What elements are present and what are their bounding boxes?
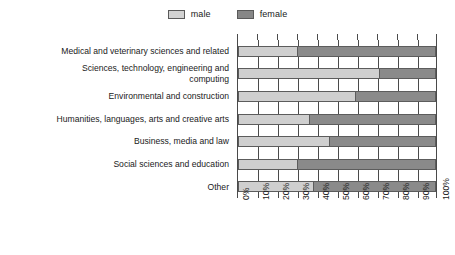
bar-segment-female[interactable] xyxy=(309,114,436,125)
x-axis-tick-labels: 0%10%20%30%40%50%60%70%80%90%100% xyxy=(237,200,437,250)
plot-area xyxy=(237,40,437,198)
x-tick-label: 30% xyxy=(301,183,311,200)
male-swatch-icon xyxy=(168,10,185,19)
x-tick-label: 60% xyxy=(361,183,371,200)
bar-row[interactable] xyxy=(238,136,436,147)
category-label: Humanities, languages, arts and creative… xyxy=(0,114,229,125)
stacked-bar-chart: male female Medical and veterinary scien… xyxy=(0,0,455,255)
x-tick-label: 70% xyxy=(381,183,391,200)
x-tick-label: 80% xyxy=(401,183,411,200)
bar-segment-male[interactable] xyxy=(238,136,329,147)
bar-segment-male[interactable] xyxy=(238,68,379,79)
category-label: Business, media and law xyxy=(0,136,229,147)
bar-row[interactable] xyxy=(238,46,436,57)
x-tick-label: 100% xyxy=(441,178,451,200)
bar-row[interactable] xyxy=(238,91,436,102)
bar-segment-female[interactable] xyxy=(379,68,436,79)
legend-label-female: female xyxy=(260,9,288,19)
bar-rows xyxy=(238,40,436,198)
bar-segment-male[interactable] xyxy=(238,159,297,170)
bar-row[interactable] xyxy=(238,159,436,170)
x-tick-label: 50% xyxy=(341,183,351,200)
category-axis-labels: Medical and veterinary sciences and rela… xyxy=(0,40,233,198)
chart-legend: male female xyxy=(0,9,455,19)
legend-item-male[interactable]: male xyxy=(168,9,211,19)
x-tick-label: 90% xyxy=(421,183,431,200)
x-tick-label: 20% xyxy=(281,183,291,200)
x-tick-label: 0% xyxy=(241,188,251,200)
bar-segment-female[interactable] xyxy=(297,159,436,170)
bar-segment-female[interactable] xyxy=(313,181,436,192)
x-tick-label: 40% xyxy=(321,183,331,200)
female-swatch-icon xyxy=(237,10,254,19)
legend-label-male: male xyxy=(191,9,211,19)
legend-item-female[interactable]: female xyxy=(237,9,288,19)
category-label: Medical and veterinary sciences and rela… xyxy=(0,46,229,57)
bar-segment-male[interactable] xyxy=(238,91,355,102)
bar-segment-female[interactable] xyxy=(355,91,436,102)
category-label: Sciences, technology, engineering and co… xyxy=(44,63,229,84)
x-tick-label: 10% xyxy=(261,183,271,200)
bar-segment-female[interactable] xyxy=(329,136,436,147)
category-label: Environmental and construction xyxy=(0,91,229,102)
category-label: Social sciences and education xyxy=(0,159,229,170)
bar-row[interactable] xyxy=(238,114,436,125)
bar-segment-female[interactable] xyxy=(297,46,436,57)
bar-row[interactable] xyxy=(238,68,436,79)
category-label: Other xyxy=(0,182,229,193)
bar-segment-male[interactable] xyxy=(238,114,309,125)
bar-segment-male[interactable] xyxy=(238,46,297,57)
